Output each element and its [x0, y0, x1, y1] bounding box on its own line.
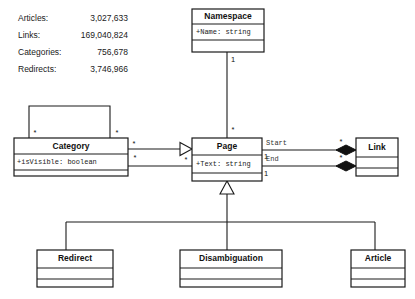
- stat-value-links: 169,040,824: [81, 30, 129, 40]
- aggregation-page-link-end: End 1 *: [262, 153, 356, 178]
- multiplicity-category-gen-source: *: [133, 139, 136, 148]
- self-association-category-path: [29, 106, 110, 138]
- association-category-page: *: [128, 153, 192, 166]
- association-namespace-page: 1 *: [227, 52, 235, 138]
- class-box-namespace[interactable]: Namespace +Name: string: [192, 9, 264, 52]
- class-attribute-page: +Text: string: [196, 160, 251, 168]
- role-label-start: Start: [266, 139, 287, 147]
- class-name-disambiguation: Disambiguation: [199, 253, 263, 263]
- class-box-article[interactable]: Article: [351, 250, 405, 287]
- class-box-category[interactable]: Category +isVisible: boolean: [14, 138, 128, 176]
- multiplicity-category-self-right: *: [116, 128, 119, 137]
- class-name-link: Link: [368, 142, 386, 152]
- multiplicity-category-self-left: *: [34, 128, 37, 137]
- statistics-block: Articles: 3,027,633 Links: 169,040,824 C…: [18, 13, 128, 74]
- generalization-tree-page-subclasses: [66, 181, 375, 250]
- stat-label-categories: Categories:: [18, 47, 61, 57]
- stat-label-redirects: Redirects:: [18, 64, 56, 74]
- multiplicity-page-end-end: 1: [264, 169, 268, 178]
- generalization-arrowhead-page-subclasses: [220, 181, 234, 194]
- generalization-arrowhead-page: [180, 143, 192, 156]
- class-name-page: Page: [217, 141, 238, 151]
- class-name-namespace: Namespace: [204, 11, 252, 21]
- stat-value-categories: 756,678: [97, 47, 128, 57]
- stat-value-redirects: 3,746,966: [90, 64, 128, 74]
- aggregation-diamond-end: [336, 161, 356, 171]
- multiplicity-link-start-end: *: [340, 137, 343, 146]
- class-box-page[interactable]: Page +Text: string: [192, 138, 262, 181]
- class-attribute-category: +isVisible: boolean: [17, 158, 97, 166]
- multiplicity-page-gen-target: *: [185, 155, 188, 164]
- generalization-category-page: * *: [128, 139, 192, 164]
- role-label-end: End: [266, 155, 279, 163]
- multiplicity-page-from-namespace: *: [232, 125, 235, 134]
- uml-class-diagram: Articles: 3,027,633 Links: 169,040,824 C…: [0, 0, 415, 299]
- class-box-redirect[interactable]: Redirect: [37, 250, 113, 287]
- class-attribute-namespace: +Name: string: [196, 28, 251, 36]
- class-name-redirect: Redirect: [58, 253, 92, 263]
- self-association-category: * *: [29, 106, 119, 138]
- class-box-disambiguation[interactable]: Disambiguation: [180, 250, 282, 287]
- multiplicity-namespace-end: 1: [231, 55, 235, 64]
- class-name-article: Article: [365, 253, 392, 263]
- stat-label-links: Links:: [18, 30, 40, 40]
- class-box-link[interactable]: Link: [356, 138, 398, 176]
- stat-label-articles: Articles:: [18, 13, 48, 23]
- multiplicity-category-assoc-right: *: [134, 153, 137, 162]
- class-name-category: Category: [53, 141, 90, 151]
- multiplicity-link-end-end: *: [340, 153, 343, 162]
- stat-value-articles: 3,027,633: [90, 13, 128, 23]
- uml-diagram-canvas: Articles: 3,027,633 Links: 169,040,824 C…: [0, 0, 415, 299]
